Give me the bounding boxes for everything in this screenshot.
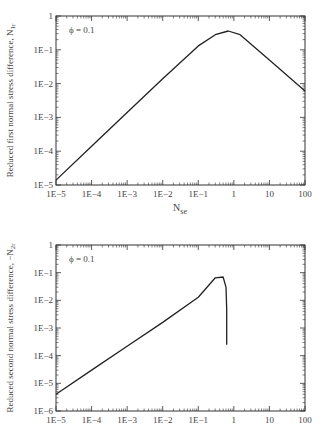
x-tick-label: 100: [298, 415, 312, 425]
y-tick-label: 1: [49, 11, 54, 21]
x-tick-label: 1E−4: [82, 189, 102, 199]
x-tick-label: 1E−2: [153, 415, 173, 425]
x-tick-label: 1E−3: [117, 415, 137, 425]
y-axis-label: Reduced second normal stress difference,…: [5, 243, 17, 413]
data-curve: [56, 31, 305, 180]
plot-frame: [56, 245, 305, 411]
y-tick-label: 1E−4: [33, 351, 53, 361]
data-curve: [56, 277, 227, 394]
y-tick-label: 1E−5: [33, 378, 53, 388]
x-axis-label: Nse: [173, 202, 187, 216]
x-tick-label: 1E−1: [188, 415, 208, 425]
x-tick-label: 100: [298, 189, 312, 199]
y-tick-label: 1E−1: [33, 45, 53, 55]
x-tick-label: 1E−5: [46, 415, 66, 425]
x-tick-label: 10: [265, 415, 275, 425]
x-tick-label: 1: [232, 415, 237, 425]
y-tick-label: 1E−3: [33, 112, 53, 122]
y-tick-label: 1E−3: [33, 323, 53, 333]
y-tick-label: 1: [49, 240, 54, 250]
y-tick-label: 1E−1: [33, 268, 53, 278]
phi-annotation: ϕ = 0.1: [69, 254, 95, 264]
plot-top: 1E−51E−41E−31E−21E−111010011E−11E−21E−31…: [5, 11, 312, 199]
y-tick-label: 1E−2: [33, 295, 53, 305]
phi-annotation: ϕ = 0.1: [69, 25, 95, 35]
chart-figure: 1E−51E−41E−31E−21E−111010011E−11E−21E−31…: [0, 0, 324, 425]
y-tick-label: 1E−2: [33, 79, 53, 89]
y-tick-label: 1E−4: [33, 146, 53, 156]
plot-bottom: 1E−51E−41E−31E−21E−111010011E−11E−21E−31…: [5, 240, 312, 425]
x-tick-label: 1E−5: [46, 189, 66, 199]
x-tick-label: 1E−2: [153, 189, 173, 199]
x-tick-label: 1E−4: [82, 415, 102, 425]
y-axis-label: Reduced first normal stress difference, …: [5, 23, 17, 177]
y-tick-label: 1E−6: [33, 406, 53, 416]
x-tick-label: 1E−3: [117, 189, 137, 199]
y-tick-label: 1E−5: [33, 180, 53, 190]
x-tick-label: 1: [232, 189, 237, 199]
x-tick-label: 1E−1: [188, 189, 208, 199]
plot-frame: [56, 16, 305, 185]
x-tick-label: 10: [265, 189, 275, 199]
